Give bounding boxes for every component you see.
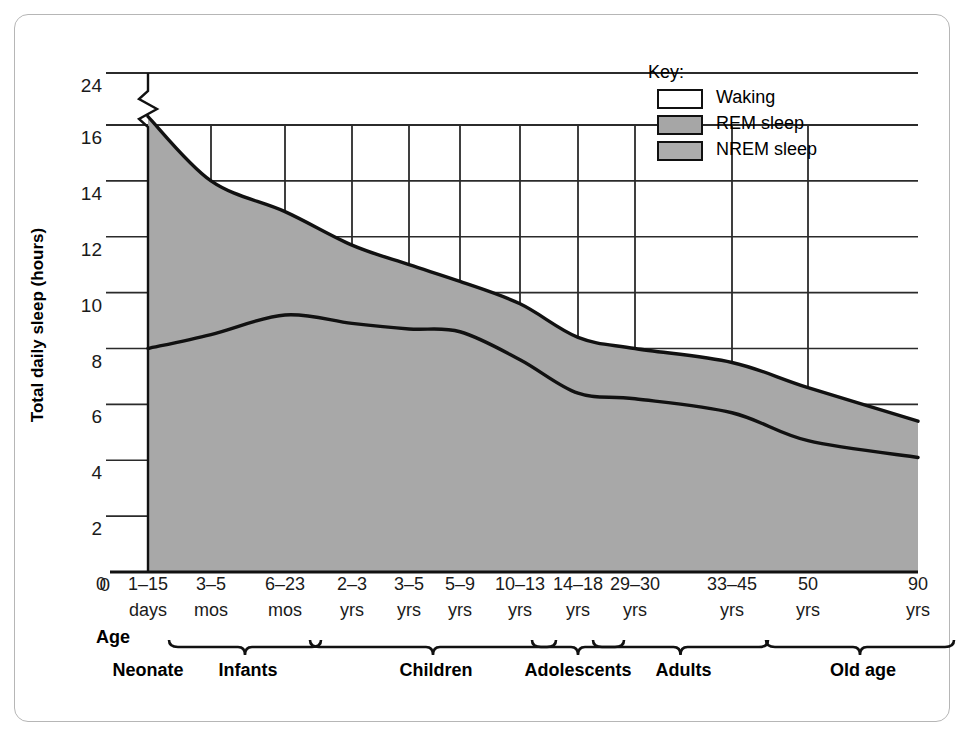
x-tick-unit-10: yrs bbox=[758, 600, 858, 621]
group-label-adults: Adults bbox=[594, 660, 774, 681]
y-tick-label-8: 8 bbox=[58, 351, 102, 373]
group-brackets bbox=[169, 640, 954, 655]
bracket-infants bbox=[169, 640, 321, 655]
y-tick-label-2: 2 bbox=[58, 518, 102, 540]
x-tick-label-8: 29–30 bbox=[585, 574, 685, 595]
x-axis-origin-label: 0 bbox=[86, 574, 116, 595]
legend-label-rem-sleep: REM sleep bbox=[716, 113, 804, 134]
y-tick-label-24: 24 bbox=[58, 75, 102, 97]
bracket-old-age bbox=[766, 640, 954, 655]
bracket-adults bbox=[593, 640, 768, 655]
total-sleep-area bbox=[148, 117, 918, 572]
legend-label-nrem-sleep: NREM sleep bbox=[716, 139, 817, 160]
x-tick-label-11: 90 bbox=[868, 574, 968, 595]
y-tick-label-10: 10 bbox=[58, 295, 102, 317]
legend-swatch-nrem-sleep bbox=[657, 141, 703, 161]
x-tick-unit-11: yrs bbox=[868, 600, 968, 621]
legend-label-waking: Waking bbox=[716, 87, 775, 108]
group-label-old-age: Old age bbox=[773, 660, 953, 681]
x-tick-label-10: 50 bbox=[758, 574, 858, 595]
legend-title: Key: bbox=[648, 62, 684, 83]
x-axis-title: Age bbox=[96, 627, 130, 648]
y-tick-label-12: 12 bbox=[58, 239, 102, 261]
sleep-area-chart bbox=[0, 0, 968, 739]
y-tick-label-16: 16 bbox=[58, 127, 102, 149]
bracket-children bbox=[310, 640, 556, 655]
x-tick-unit-8: yrs bbox=[585, 600, 685, 621]
y-tick-label-4: 4 bbox=[58, 462, 102, 484]
group-label-infants: Infants bbox=[158, 660, 338, 681]
legend-swatch-rem-sleep bbox=[657, 115, 703, 135]
y-tick-label-6: 6 bbox=[58, 406, 102, 428]
figure-page: Total daily sleep (hours) 02468101214162… bbox=[0, 0, 968, 739]
y-tick-label-14: 14 bbox=[58, 183, 102, 205]
legend-swatch-waking bbox=[657, 89, 703, 109]
